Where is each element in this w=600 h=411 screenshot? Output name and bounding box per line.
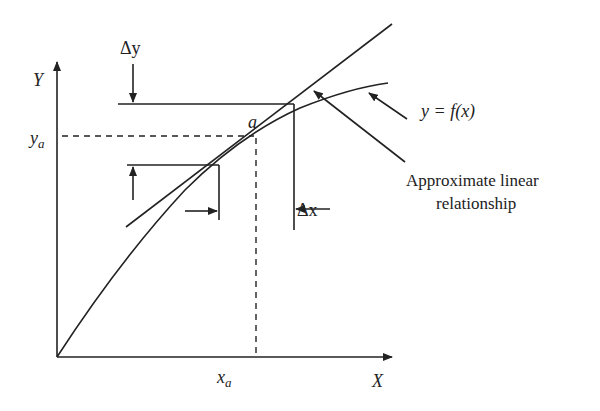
function-leader-arrow: [369, 93, 407, 119]
xa-label: xa: [216, 367, 232, 390]
ya-label: ya: [28, 128, 45, 151]
curve-f: [57, 83, 388, 357]
diagram-canvas: Y X Δy Δx ya xa a y = f(x) Approximate l…: [0, 0, 600, 411]
linear-leader-arrow: [314, 91, 405, 162]
point-a-label: a: [248, 112, 257, 132]
linear-label-line1: Approximate linear: [406, 171, 539, 190]
x-axis-label: X: [371, 371, 384, 391]
function-label: y = f(x): [419, 101, 475, 122]
linear-label-line2: relationship: [436, 194, 516, 213]
delta-x-label: Δx: [297, 200, 318, 220]
tangent-line: [126, 24, 392, 227]
y-axis-label: Y: [33, 70, 45, 90]
delta-y-label: Δy: [120, 38, 141, 58]
